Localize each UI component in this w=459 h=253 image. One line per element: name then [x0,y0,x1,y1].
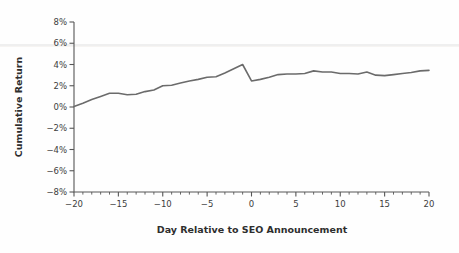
x-tick-label: 0 [249,199,254,209]
x-tick-label: −5 [201,199,214,209]
y-tick-label: 6% [54,38,68,48]
data-series-group [74,65,429,107]
y-tick-label: 8% [54,17,68,27]
x-tick-label: 15 [379,199,390,209]
y-tick-label: −4% [46,145,67,155]
y-tick-label: −8% [46,187,67,197]
x-tick-label: 20 [424,199,435,209]
x-tick-label: 5 [293,199,298,209]
y-tick-label: 4% [54,60,68,70]
axes [70,22,430,197]
x-axis-tick-labels: −20−15−10−505101520 [65,199,434,209]
axis-lines [74,22,429,192]
y-axis-major-ticks [70,22,75,192]
y-axis-tick-labels: −8%−6%−4%−2%0%2%4%6%8% [46,17,67,197]
x-tick-label: −15 [109,199,127,209]
x-axis-title: Day Relative to SEO Announcement [157,224,348,235]
chart-figure: −20−15−10−505101520 −8%−6%−4%−2%0%2%4%6%… [0,0,459,253]
y-tick-label: 2% [54,81,68,91]
y-tick-label: −2% [46,123,67,133]
series-line-cumulative-return [74,65,429,107]
x-tick-label: 10 [335,199,346,209]
y-tick-label: 0% [54,102,68,112]
x-tick-label: −10 [154,199,172,209]
x-tick-label: −20 [65,199,83,209]
line-chart: −20−15−10−505101520 −8%−6%−4%−2%0%2%4%6%… [0,0,459,253]
y-axis-title: Cumulative Return [13,57,24,158]
y-tick-label: −6% [46,166,67,176]
